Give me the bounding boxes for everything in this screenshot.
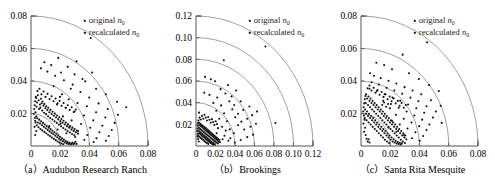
- data-point: [389, 139, 391, 141]
- data-point: [197, 122, 199, 124]
- data-point: [50, 132, 52, 134]
- data-point: [198, 112, 200, 114]
- data-point: [93, 141, 95, 143]
- data-point: [376, 90, 378, 92]
- data-point: [217, 127, 219, 129]
- data-point: [63, 102, 65, 104]
- data-point: [395, 114, 397, 116]
- data-point: [55, 139, 57, 141]
- data-point: [229, 137, 231, 139]
- data-point: [385, 124, 387, 126]
- data-point: [34, 134, 36, 136]
- x-tick-label: 0: [359, 149, 364, 159]
- data-point: [235, 89, 237, 91]
- data-point: [374, 128, 376, 130]
- data-point: [408, 72, 410, 74]
- data-point: [34, 121, 36, 123]
- data-point: [227, 84, 229, 86]
- legend-label: recalculated n0: [89, 27, 139, 38]
- data-point: [90, 37, 92, 39]
- data-point: [105, 93, 107, 95]
- data-point: [46, 109, 48, 111]
- data-point: [62, 127, 64, 129]
- data-point: [403, 134, 405, 136]
- data-point: [60, 139, 62, 141]
- data-point: [66, 125, 68, 127]
- data-point: [71, 119, 73, 121]
- data-point: [223, 112, 225, 114]
- data-point: [53, 115, 55, 117]
- data-point: [422, 135, 424, 137]
- data-point: [401, 142, 403, 144]
- data-point: [231, 95, 233, 97]
- data-point: [207, 116, 209, 118]
- data-point: [388, 134, 390, 136]
- data-point: [387, 119, 389, 121]
- data-point: [397, 100, 399, 102]
- data-point: [380, 126, 382, 128]
- data-point: [56, 114, 58, 116]
- data-point: [40, 98, 42, 100]
- data-point: [264, 46, 266, 48]
- data-point: [221, 126, 223, 128]
- data-point: [240, 100, 242, 102]
- data-point: [51, 118, 53, 120]
- legend-label: recalculated n0: [419, 27, 469, 38]
- data-point: [63, 120, 65, 122]
- data-point: [46, 125, 48, 127]
- data-point: [379, 111, 381, 113]
- data-point: [206, 119, 208, 121]
- data-point: [61, 105, 63, 107]
- data-point: [376, 104, 378, 106]
- data-point: [44, 107, 46, 109]
- data-point: [55, 133, 57, 135]
- data-point: [54, 75, 56, 77]
- data-point: [73, 134, 75, 136]
- data-point: [372, 117, 374, 119]
- data-point: [365, 134, 367, 136]
- data-point: [34, 117, 36, 119]
- data-point: [49, 130, 51, 132]
- y-tick-label: 0.12: [175, 11, 192, 21]
- data-point: [52, 100, 54, 102]
- data-point: [406, 127, 408, 129]
- data-point: [89, 127, 91, 129]
- data-point: [363, 102, 365, 104]
- data-point: [378, 84, 380, 86]
- data-point: [381, 113, 383, 115]
- data-point: [203, 114, 205, 116]
- data-point: [409, 97, 411, 99]
- data-point: [218, 139, 220, 141]
- data-point: [399, 105, 401, 107]
- data-point: [72, 84, 74, 86]
- series-recalculated: [203, 46, 276, 144]
- legend-subscript: 0: [301, 32, 304, 38]
- data-point: [197, 119, 199, 121]
- data-point: [383, 64, 385, 66]
- data-point: [384, 113, 386, 115]
- data-point: [363, 131, 365, 133]
- legend-label: recalculated n0: [254, 27, 304, 38]
- data-point: [382, 137, 384, 139]
- panel-caption: （c）Santa Rita Mesquite: [360, 164, 466, 175]
- data-point: [43, 91, 45, 93]
- data-point: [61, 93, 63, 95]
- data-point: [373, 75, 375, 77]
- data-point: [231, 108, 233, 110]
- data-point: [33, 126, 35, 128]
- data-point: [38, 88, 40, 90]
- data-point: [117, 114, 119, 116]
- data-point: [55, 98, 57, 100]
- data-point: [197, 125, 199, 127]
- data-point: [252, 134, 254, 136]
- data-point: [386, 115, 388, 117]
- data-point: [75, 143, 77, 145]
- data-point: [380, 134, 382, 136]
- data-point: [364, 127, 366, 129]
- data-point: [369, 106, 371, 108]
- data-point: [386, 87, 388, 89]
- data-point: [62, 115, 64, 117]
- data-point: [51, 95, 53, 97]
- panel-caption: （a）Audubon Research Ranch: [18, 164, 147, 175]
- radial-arc: [361, 49, 449, 147]
